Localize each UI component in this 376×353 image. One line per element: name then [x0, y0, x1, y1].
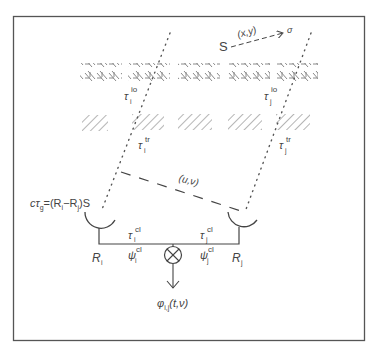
svg-text:i: i — [144, 147, 146, 154]
svg-text:τ: τ — [124, 90, 129, 102]
svg-text:cl: cl — [207, 225, 213, 234]
antenna-j-sub: j — [240, 259, 243, 267]
svg-text:tr: tr — [145, 135, 150, 144]
correlator-multiply-icon — [165, 244, 182, 264]
svg-text:i: i — [134, 236, 136, 243]
visibility-output-label: φi,j(t,ν) — [157, 297, 189, 312]
interferometer-diagram: S (x,y) σ τ io i τ io j τ tr i τ tr — [0, 0, 376, 353]
svg-text:τ: τ — [264, 90, 269, 102]
source-label: S — [219, 39, 228, 54]
antenna-i-label: R — [92, 251, 101, 265]
antenna-dish-i — [85, 212, 115, 228]
signal-cable — [99, 227, 239, 244]
antenna-i-sub: i — [101, 259, 103, 266]
sigma-label: σ — [287, 25, 293, 35]
svg-text:τ: τ — [128, 229, 133, 241]
clock-tau-i: τ cl i — [128, 225, 141, 243]
tau-io-j-label: τ io j — [264, 85, 278, 106]
tau-tr-j-label: τ tr j — [279, 135, 291, 155]
tau-io-i-label: τ io i — [124, 85, 138, 105]
tau-tr-i-label: τ tr i — [138, 135, 150, 154]
svg-text:cl: cl — [135, 225, 141, 234]
svg-text:i: i — [135, 257, 137, 264]
clock-psi-i: ψ cl i — [128, 245, 142, 264]
antenna-j-label: R — [232, 251, 241, 265]
svg-text:cl: cl — [208, 245, 214, 254]
svg-text:cl: cl — [136, 245, 142, 254]
svg-text:φi,j(t,ν): φi,j(t,ν) — [157, 297, 189, 312]
baseline-label: (u,ν) — [178, 172, 200, 188]
clock-tau-j: τ cl j — [200, 225, 213, 244]
svg-text:τ: τ — [138, 139, 143, 151]
source-coord-label: (x,y) — [236, 24, 258, 40]
geometric-delay-label: cτg=(Ri−Rj)S — [30, 197, 90, 212]
svg-text:j: j — [269, 98, 272, 106]
svg-text:j: j — [284, 147, 287, 155]
svg-text:cτg=(Ri−Rj)S: cτg=(Ri−Rj)S — [30, 197, 90, 212]
svg-text:j: j — [205, 236, 208, 244]
svg-text:io: io — [131, 85, 138, 94]
svg-text:io: io — [271, 85, 278, 94]
antenna-dish-j — [228, 212, 257, 227]
svg-text:τ: τ — [279, 139, 284, 151]
svg-text:τ: τ — [200, 229, 205, 241]
ionosphere-layer — [80, 63, 318, 81]
source-direction: S (x,y) σ — [219, 24, 293, 54]
svg-text:j: j — [206, 257, 209, 265]
svg-text:tr: tr — [286, 135, 291, 144]
clock-psi-j: ψ cl j — [200, 245, 214, 265]
svg-text:i: i — [130, 98, 132, 105]
